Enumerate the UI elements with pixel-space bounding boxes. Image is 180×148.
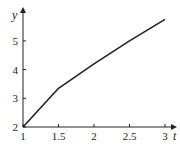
chart: 11.522.532345ty [0,0,180,148]
y-tick-label: 5 [13,35,19,47]
y-tick-label: 3 [13,92,19,104]
x-tick-label: 1 [20,130,26,142]
plot-area: 11.522.532345ty [11,8,177,143]
x-axis-label: t [173,129,177,143]
y-tick-label: 2 [13,121,19,133]
x-tick-label: 1.5 [52,130,66,142]
x-tick-label: 3 [162,130,168,142]
series-line [23,19,165,127]
y-axis-label: y [11,8,18,22]
x-tick-label: 2.5 [123,130,137,142]
y-tick-label: 4 [13,64,19,76]
x-tick-label: 2 [91,130,97,142]
